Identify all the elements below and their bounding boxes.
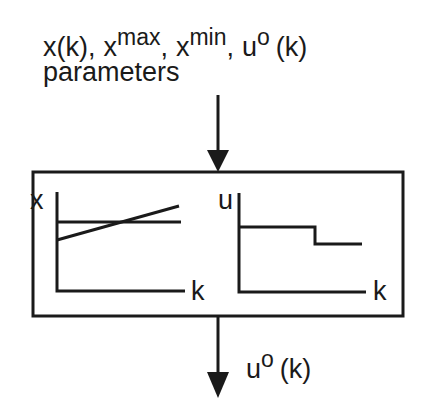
u0-arg: (k) xyxy=(276,32,307,62)
output-label: uo(k) xyxy=(246,346,311,384)
right-plot-x-label: k xyxy=(373,276,387,306)
output-arrow-icon xyxy=(207,316,229,398)
left-plot-y-label: x xyxy=(30,185,44,215)
output-sup: o xyxy=(261,346,274,372)
xmax-sup: max xyxy=(117,24,161,50)
right-plot: u k xyxy=(218,185,387,306)
left-plot: x k xyxy=(30,185,205,306)
left-plot-x-label: k xyxy=(191,276,205,306)
output-arg: (k) xyxy=(280,354,311,384)
u0-base: u xyxy=(242,32,257,62)
u0-sup: o xyxy=(257,24,270,50)
diagram-canvas: x(k),xmax,xmin,uo(k) parameters x k u k … xyxy=(0,0,445,411)
xmin-sup: min xyxy=(189,24,226,50)
control-step-line xyxy=(239,227,362,244)
input-label-parameters: parameters xyxy=(43,57,180,87)
output-base: u xyxy=(246,354,261,384)
left-plot-axes xyxy=(57,192,185,291)
right-plot-y-label: u xyxy=(218,185,233,215)
input-arrow-icon xyxy=(207,95,229,172)
comma-2: , xyxy=(227,32,235,62)
